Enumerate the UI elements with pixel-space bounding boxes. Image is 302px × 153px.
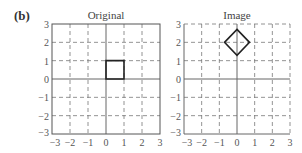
y-tick-label: −2 bbox=[38, 111, 49, 122]
y-tick-label: −3 bbox=[170, 127, 181, 138]
x-tick-label: −2 bbox=[65, 137, 76, 148]
y-tick-label: 0 bbox=[176, 74, 181, 85]
plot-title: Original bbox=[88, 9, 125, 21]
x-tick-label: 0 bbox=[235, 137, 240, 148]
x-tick-label: −1 bbox=[83, 137, 94, 148]
y-tick-label: −2 bbox=[170, 111, 181, 122]
x-tick-label: −3 bbox=[182, 137, 193, 148]
y-tick-label: −1 bbox=[170, 92, 181, 103]
plot-title: Image bbox=[223, 9, 251, 21]
x-tick-label: 1 bbox=[122, 137, 127, 148]
y-tick-label: 1 bbox=[176, 56, 181, 67]
y-tick-label: 2 bbox=[176, 37, 181, 48]
x-tick-label: 3 bbox=[288, 137, 293, 148]
x-tick-label: 0 bbox=[104, 137, 109, 148]
x-tick-label: −2 bbox=[196, 137, 207, 148]
y-tick-label: 1 bbox=[44, 56, 49, 67]
y-tick-label: −1 bbox=[38, 92, 49, 103]
x-tick-label: 2 bbox=[140, 137, 145, 148]
x-tick-label: 1 bbox=[252, 137, 257, 148]
plot-image: Image−3−2−101233210−1−2−3 bbox=[170, 9, 292, 148]
y-tick-label: 2 bbox=[44, 37, 49, 48]
y-tick-label: 3 bbox=[44, 19, 49, 30]
figure-canvas: Original−3−2−101233210−1−2−3Image−3−2−10… bbox=[0, 0, 302, 153]
plot-original: Original−3−2−101233210−1−2−3 bbox=[38, 9, 162, 148]
square-shape bbox=[106, 61, 124, 79]
x-tick-label: 3 bbox=[158, 137, 163, 148]
y-tick-label: −3 bbox=[38, 127, 49, 138]
x-tick-label: −1 bbox=[214, 137, 225, 148]
x-tick-label: 2 bbox=[270, 137, 275, 148]
y-tick-label: 3 bbox=[176, 19, 181, 30]
y-tick-label: 0 bbox=[44, 74, 49, 85]
x-tick-label: −3 bbox=[50, 137, 61, 148]
